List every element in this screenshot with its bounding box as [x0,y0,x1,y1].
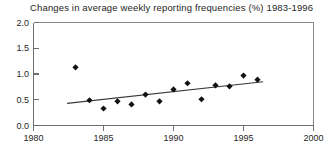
y-tick-label: 0.5 [16,95,29,105]
y-tick-label: 2.0 [16,18,29,28]
data-point-group [72,64,260,111]
y-axis-labels: 0.0 0.5 1.0 1.5 2.0 [16,18,29,131]
data-point [100,105,106,111]
data-point [128,101,134,107]
data-point [156,98,162,104]
y-tick-label: 1.5 [16,43,29,53]
data-point [198,96,204,102]
data-point [142,92,148,98]
y-tick-label: 1.0 [16,69,29,79]
data-point [72,64,78,70]
x-tick-label: 2000 [303,133,323,143]
x-tick-label: 1980 [23,133,43,143]
scatter-plot: 0.0 0.5 1.0 1.5 2.0 1980 1985 1990 1995 … [0,0,331,151]
chart-figure: Changes in average weekly reporting freq… [0,0,331,151]
y-tick-label: 0.0 [16,121,29,131]
y-axis-ticks [34,23,39,126]
data-point [86,97,92,103]
x-tick-label: 1995 [233,133,253,143]
data-point [114,98,120,104]
plot-frame [34,23,314,126]
trend-line [67,82,263,104]
data-point [184,80,190,86]
x-tick-label: 1990 [163,133,183,143]
x-tick-label: 1985 [93,133,113,143]
data-point [226,83,232,89]
x-axis-ticks [34,126,314,131]
x-axis-labels: 1980 1985 1990 1995 2000 [23,133,323,143]
data-point [240,72,246,78]
